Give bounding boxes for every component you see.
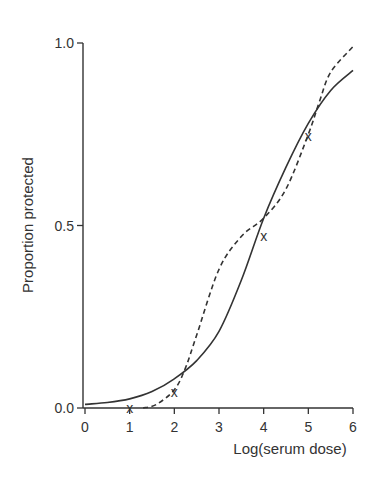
dashed-curve <box>143 47 353 408</box>
x-tick-label: 4 <box>260 419 268 435</box>
solid-curve <box>85 70 353 404</box>
x-tick-label: 3 <box>215 419 223 435</box>
y-tick-label: 1.0 <box>55 35 75 51</box>
x-tick-label: 6 <box>349 419 357 435</box>
x-axis-label: Log(serum dose) <box>233 440 346 457</box>
axes: 0.00.51.00123456 <box>55 35 358 435</box>
y-tick-label: 0.5 <box>55 218 75 234</box>
chart-canvas: 0.00.51.00123456 xxxx Proportion protect… <box>0 0 384 492</box>
x-marker: x <box>305 128 312 144</box>
x-tick-label: 2 <box>170 419 178 435</box>
curves <box>85 47 353 408</box>
y-axis-label: Proportion protected <box>19 157 36 293</box>
y-tick-label: 0.0 <box>55 400 75 416</box>
x-tick-label: 0 <box>81 419 89 435</box>
x-marker: x <box>126 400 133 416</box>
x-marker: x <box>171 384 178 400</box>
x-marker: x <box>260 228 267 244</box>
x-tick-label: 5 <box>304 419 312 435</box>
dose-response-chart: 0.00.51.00123456 xxxx Proportion protect… <box>0 0 384 492</box>
x-tick-label: 1 <box>126 419 134 435</box>
